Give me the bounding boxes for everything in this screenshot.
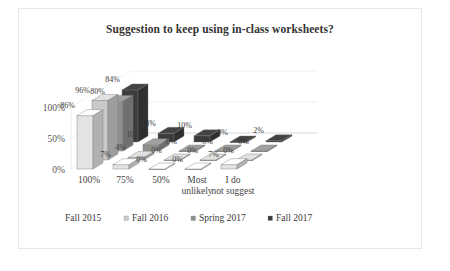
bar — [266, 135, 292, 142]
bar-data-label: 10% — [177, 121, 192, 130]
legend-label: Fall 2016 — [132, 213, 168, 223]
bar-data-label: 14% — [141, 119, 156, 128]
bar-data-label: 80% — [90, 87, 105, 96]
bar — [77, 110, 103, 169]
bar-data-label: 0% — [172, 155, 183, 164]
legend-label: Spring 2017 — [199, 213, 246, 223]
bar-data-label: 0% — [136, 155, 147, 164]
bar-front-face — [221, 165, 237, 169]
legend-swatch[interactable] — [124, 216, 129, 221]
bar-data-label: 7% — [100, 150, 111, 159]
bar — [251, 145, 277, 152]
legend-label: Fall 2017 — [276, 213, 312, 223]
bar-front-face — [113, 165, 129, 169]
bar-data-label: 0% — [187, 146, 198, 155]
bar-chart-plot: 0%50%100%84%14%10%0%2%80%10%0%0%0%96%4%0… — [19, 9, 423, 250]
y-axis-labels: 0%50%100% — [43, 103, 65, 175]
y-axis-tick: 50% — [48, 134, 66, 144]
bar-data-label: 0% — [166, 137, 177, 146]
bar-data-label: 0% — [238, 137, 249, 146]
x-axis-tick: I do — [225, 175, 240, 185]
bar — [149, 163, 175, 170]
x-axis-tick: 75% — [116, 175, 134, 185]
x-axis-tick: 50% — [152, 175, 170, 185]
bar-data-label: 0% — [151, 146, 162, 155]
bar-side-face — [93, 110, 103, 169]
y-axis-tick: 0% — [52, 165, 65, 175]
bar-data-label: 96% — [75, 86, 90, 95]
bar-data-label: 7% — [208, 150, 219, 159]
legend-swatch[interactable] — [191, 216, 196, 221]
bar-data-label: 84% — [105, 75, 120, 84]
bar — [113, 159, 139, 169]
chart-frame: Suggestion to keep using in-class worksh… — [18, 8, 422, 249]
x-axis-tick: 100% — [78, 175, 100, 185]
x-axis-tick: not suggest — [211, 186, 254, 196]
legend: Fall 2015Fall 2016Spring 2017Fall 2017 — [65, 213, 312, 223]
bar-data-label: 0% — [202, 137, 213, 146]
bar — [185, 163, 211, 170]
x-axis-tick: Most — [187, 175, 207, 185]
bar-front-face — [77, 116, 93, 169]
x-axis-tick: unlikely — [181, 186, 212, 196]
bar-data-label: 0% — [217, 128, 228, 137]
x-axis-labels: 100%75%50%MostunlikelyI donot suggest — [78, 175, 255, 196]
bar — [221, 159, 247, 169]
legend-swatch[interactable] — [268, 216, 273, 221]
legend-label: Fall 2015 — [65, 213, 101, 223]
bar-data-label: 2% — [253, 126, 264, 135]
bar-data-label: 0% — [223, 146, 234, 155]
bar-data-label: 10% — [126, 130, 141, 139]
bar-data-label: 86% — [60, 101, 75, 110]
bar-data-label: 4% — [115, 143, 126, 152]
